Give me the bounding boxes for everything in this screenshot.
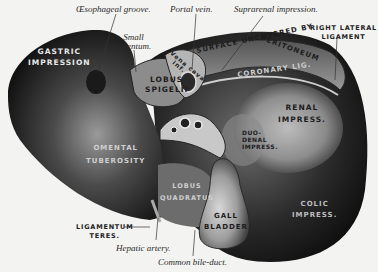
label-hepatic-artery: Hepatic artery. <box>116 244 171 253</box>
liver-diagram: Œsophageal groove. Portal vein. Supraren… <box>0 0 378 272</box>
liver-illustration <box>0 0 378 272</box>
label-lobus-quadratus: LOBUS QUADRATUS <box>160 183 214 201</box>
label-portal-vein: Portal vein. <box>170 5 213 14</box>
label-colic-impression: COLIC IMPRESS. <box>292 201 337 219</box>
label-ligamentum-teres: LIGAMENTUM TERES. <box>76 224 133 239</box>
label-right-lateral-ligament: RIGHT LATERAL LIGAMENT <box>310 25 377 40</box>
label-gastric-impression: GASTRIC IMPRESSION <box>28 48 91 66</box>
label-omental-tuberosity: OMENTAL TUBEROSITY <box>86 145 145 165</box>
label-common-bile-duct: Common bile-duct. <box>158 258 227 267</box>
label-oesophageal-groove: Œsophageal groove. <box>76 5 151 14</box>
label-suprarenal-impression: Suprarenal impression. <box>234 5 318 14</box>
label-duodenal-impression: DUO- DENAL IMPRESS. <box>242 130 278 150</box>
label-renal-impression: RENAL IMPRESS. <box>278 104 326 123</box>
label-lobus-spigelii: LOBUS SPIGELII <box>145 76 188 93</box>
label-gall-bladder: GALL BLADDER <box>204 213 248 231</box>
label-small-omentum: Small omentum. <box>116 33 151 51</box>
